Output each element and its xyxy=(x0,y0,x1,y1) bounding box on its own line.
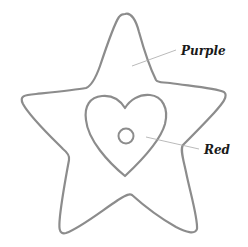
purple-label: Purple xyxy=(181,45,226,57)
circle-shape xyxy=(119,129,134,144)
purple-leader-line xyxy=(132,50,176,66)
heart-shape xyxy=(86,95,167,176)
coloring-page-drawing xyxy=(0,0,248,247)
coloring-page: Purple Red xyxy=(0,0,248,247)
red-label: Red xyxy=(204,144,230,156)
